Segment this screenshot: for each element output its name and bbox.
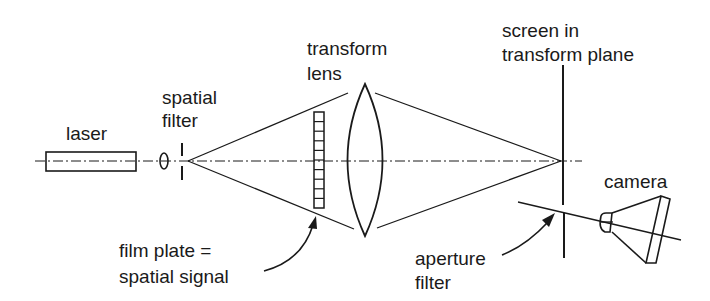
optical-setup-diagram: laser spatial filter film plate = spatia… [0, 0, 710, 301]
beam-upper-out [375, 93, 561, 161]
aperture-filter-label: aperture filter [415, 248, 491, 293]
beam-lower-in [188, 161, 354, 229]
film-plate-label: film plate = spatial signal [119, 240, 229, 287]
aperture-arrow [502, 222, 548, 255]
transform-lens-label: transform lens [307, 38, 393, 84]
film-plate-arrow [264, 225, 313, 271]
film-plate [314, 112, 324, 208]
film-plate-arrowhead [308, 216, 317, 229]
laser-label: laser [66, 123, 108, 144]
transform-lens [348, 84, 383, 236]
screen-label: screen in transform plane [502, 20, 634, 65]
beam-lower-out [377, 161, 561, 228]
camera-label: camera [604, 171, 668, 192]
spatial-filter-label: spatial filter [162, 87, 222, 131]
aperture-arrowhead [542, 213, 555, 227]
